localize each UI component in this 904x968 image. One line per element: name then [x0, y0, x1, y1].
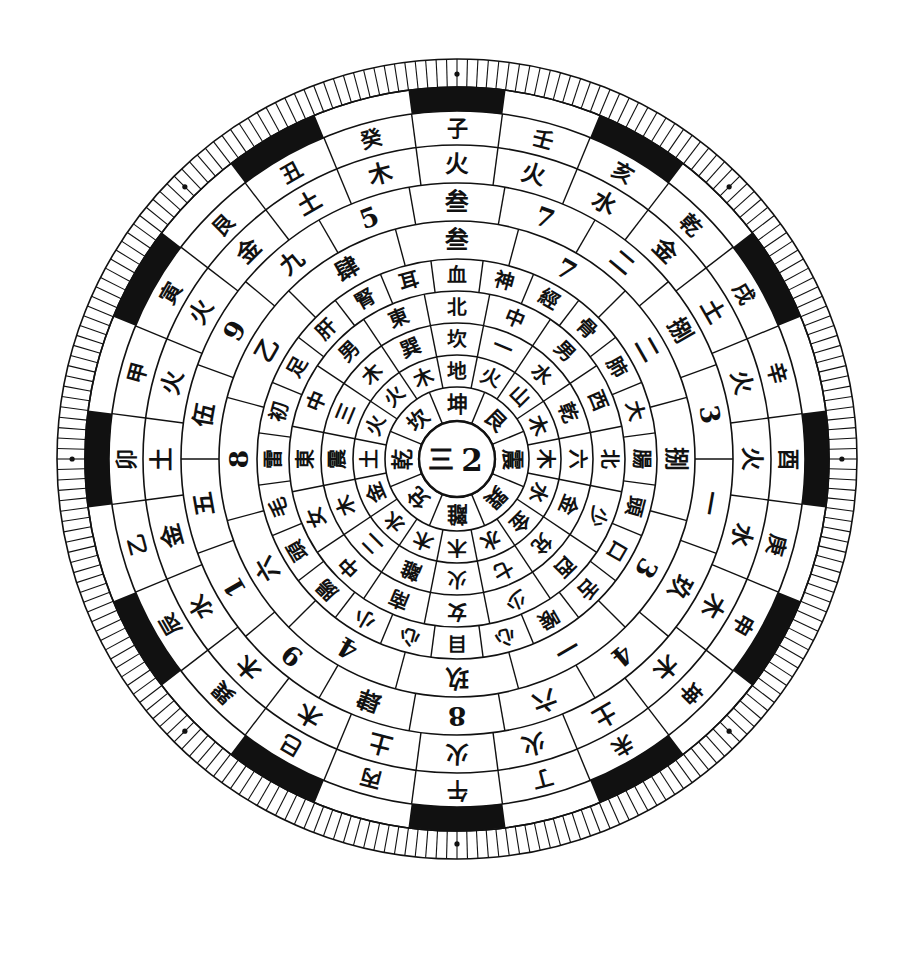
ring-glyph: 女: [447, 600, 467, 623]
ring-glyph: 木: [447, 536, 468, 559]
ring-glyph: 坤: [447, 392, 468, 417]
ring-glyph: 腸: [630, 449, 653, 469]
graduation-tick: [57, 469, 85, 470]
registration-dot: [839, 456, 844, 461]
graduation-tick: [467, 59, 468, 87]
diagram-canvas: 坤艮震巽離兌乾坎地火山木木水金水木木水金土火火木坎一水乾六金兌七火離二木震三木巽…: [0, 0, 904, 968]
registration-dot: [454, 72, 459, 77]
ring-glyph: 離: [447, 502, 468, 527]
segment-black: [85, 410, 112, 507]
ring-glyph: 叁: [444, 188, 469, 216]
ring-glyph: 捌: [662, 447, 690, 471]
ring-glyph: 北: [598, 449, 621, 469]
registration-dot: [182, 184, 187, 189]
segment-black: [408, 87, 505, 114]
center-disc: 三2: [419, 421, 495, 497]
ring-glyph: 木: [534, 448, 557, 469]
registration-dot: [182, 729, 187, 734]
ring-glyph: 火: [447, 568, 467, 591]
ring-glyph: 五: [188, 489, 220, 517]
ring-glyph: 地: [447, 360, 467, 383]
ring-glyph: 六: [566, 449, 589, 469]
cosmological-wheel: 坤艮震巽離兌乾坎地火山木木水金水木木水金土火火木坎一水乾六金兌七火離二木震三木巽…: [0, 0, 904, 968]
ring-glyph: 目: [447, 632, 467, 655]
ring-glyph: 火: [445, 150, 469, 178]
registration-dot: [727, 729, 732, 734]
ring-glyph: 震: [326, 449, 349, 469]
ring-glyph: 震: [500, 449, 525, 471]
graduation-tick: [57, 449, 85, 450]
ring-glyph: 午: [447, 778, 468, 803]
ring-glyph: 火: [738, 447, 766, 471]
ring-glyph: 玖: [445, 664, 469, 692]
ring-glyph: 火: [445, 740, 469, 768]
ring-glyph: 北: [447, 296, 467, 319]
registration-dot: [454, 841, 459, 846]
graduation-tick: [467, 831, 468, 859]
ring-glyph: 子: [447, 116, 468, 141]
ring-glyph: 一: [694, 489, 726, 517]
graduation-tick: [447, 831, 448, 859]
ring-glyph: 血: [447, 264, 467, 287]
ring-glyph: 土: [148, 447, 176, 471]
registration-dot: [727, 184, 732, 189]
graduation-tick: [829, 449, 857, 450]
ring-glyph: 東: [294, 449, 317, 469]
ring-number-glyph: 8: [223, 450, 254, 468]
graduation-tick: [829, 469, 857, 470]
ring-glyph: 雷: [262, 449, 285, 469]
center-label-left: 三: [428, 445, 454, 475]
registration-dot: [70, 456, 75, 461]
ring-glyph: 酉: [776, 449, 801, 470]
ring-glyph: 坎: [447, 328, 467, 351]
ring-glyph: 伍: [188, 400, 220, 428]
graduation-tick: [447, 59, 448, 87]
ring-glyph: 卯: [114, 449, 139, 470]
segment-black: [802, 410, 829, 507]
ring-glyph: 乾: [390, 449, 415, 470]
center-label-right: 2: [461, 442, 483, 478]
ring-number-glyph: 8: [448, 701, 466, 732]
segment-black: [408, 804, 505, 831]
ring-glyph: 土: [358, 449, 381, 469]
ring-glyph: 叁: [444, 226, 469, 254]
